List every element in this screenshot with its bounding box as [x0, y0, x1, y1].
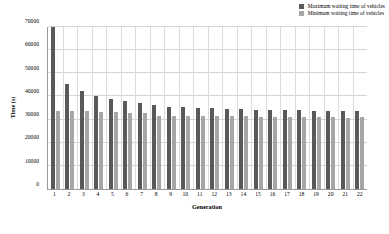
bar-minimum [201, 116, 205, 189]
bar-minimum [288, 117, 292, 189]
bar-group [251, 27, 266, 189]
y-axis-tick-label: 60000 [25, 41, 39, 47]
x-axis-tick-label: 13 [222, 191, 237, 197]
bar-maximum [138, 103, 142, 189]
x-axis-tick-label: 21 [338, 191, 353, 197]
x-axis-tick-label: 11 [192, 191, 207, 197]
y-axis-tick-label: 0 [36, 181, 39, 187]
bar-maximum [326, 111, 330, 189]
bar-minimum [230, 116, 234, 189]
bar-minimum [259, 117, 263, 189]
bar-minimum [70, 111, 74, 189]
x-axis-tick-label: 5 [105, 191, 120, 197]
chart-legend: Maximum waiting time of vehicles Minimum… [299, 3, 385, 16]
bar-minimum [128, 113, 132, 189]
bar-group [106, 27, 121, 189]
bar-maximum [167, 107, 171, 189]
bar-minimum [172, 116, 176, 189]
bar-minimum [244, 116, 248, 189]
bar-minimum [215, 116, 219, 189]
bar-minimum [360, 117, 364, 189]
legend-swatch-minimum [299, 11, 304, 16]
bar-group [309, 27, 324, 189]
bar-group [280, 27, 295, 189]
x-axis-tick-label: 7 [134, 191, 149, 197]
bar-maximum [210, 108, 214, 189]
bar-maximum [239, 109, 243, 189]
bar-group [266, 27, 281, 189]
x-axis-tick-label: 22 [352, 191, 367, 197]
bar-group [179, 27, 194, 189]
bar-maximum [123, 101, 127, 189]
bar-maximum [283, 110, 287, 189]
x-axis-tick-label: 9 [163, 191, 178, 197]
x-axis-tick-label: 15 [251, 191, 266, 197]
bar-maximum [80, 91, 84, 189]
x-axis-title: Generation [47, 203, 367, 210]
plot-area [47, 27, 367, 190]
bar-minimum [302, 117, 306, 189]
bar-maximum [225, 109, 229, 189]
x-axis-tick-label: 20 [323, 191, 338, 197]
bar-maximum [341, 111, 345, 189]
bar-maximum [312, 111, 316, 189]
legend-item-minimum: Minimum waiting time of vehicles [299, 10, 385, 16]
x-axis-tick-label: 1 [47, 191, 62, 197]
bar-minimum [331, 117, 335, 189]
x-axis-tick-label: 19 [309, 191, 324, 197]
bar-group [150, 27, 165, 189]
bar-group [237, 27, 252, 189]
bar-minimum [56, 111, 60, 189]
bar-maximum [355, 111, 359, 189]
bar-maximum [109, 99, 113, 189]
bar-group [222, 27, 237, 189]
y-axis-tick-label: 20000 [25, 134, 39, 140]
y-axis-tick-label: 40000 [25, 88, 39, 94]
x-axis-tick-label: 17 [280, 191, 295, 197]
x-axis-tick-label: 18 [294, 191, 309, 197]
x-axis-tick-label: 8 [149, 191, 164, 197]
bar-maximum [94, 96, 98, 189]
bar-minimum [273, 117, 277, 189]
bar-group [92, 27, 107, 189]
y-axis-tick-label: 30000 [25, 111, 39, 117]
bar-maximum [297, 110, 301, 189]
bar-minimum [186, 116, 190, 189]
x-axis-tick-label: 4 [91, 191, 106, 197]
bar-group [63, 27, 78, 189]
bar-group [324, 27, 339, 189]
bar-maximum [51, 27, 55, 189]
y-axis-tick-label: 70000 [25, 18, 39, 24]
bar-group [77, 27, 92, 189]
bar-group [135, 27, 150, 189]
bar-minimum [99, 112, 103, 189]
bar-minimum [143, 113, 147, 189]
bar-group [193, 27, 208, 189]
bar-group [48, 27, 63, 189]
bar-maximum [65, 84, 69, 189]
bar-minimum [157, 116, 161, 189]
bar-group [121, 27, 136, 189]
x-axis-ticks: 12345678910111213141516171819202122 [47, 191, 367, 197]
legend-label-maximum: Maximum waiting time of vehicles [308, 3, 385, 9]
x-axis-tick-label: 3 [76, 191, 91, 197]
y-axis-title-text: Time (s) [9, 96, 16, 118]
bar-group [338, 27, 353, 189]
y-axis-tick-label: 10000 [25, 158, 39, 164]
bar-group [295, 27, 310, 189]
bar-chart: Maximum waiting time of vehicles Minimum… [0, 0, 389, 234]
bar-minimum [346, 118, 350, 190]
bar-maximum [196, 108, 200, 189]
y-axis-title: Time (s) [2, 0, 24, 234]
bar-maximum [254, 110, 258, 189]
x-axis-tick-label: 10 [178, 191, 193, 197]
bar-minimum [114, 112, 118, 189]
x-axis-tick-label: 16 [265, 191, 280, 197]
bar-minimum [85, 111, 89, 189]
bar-maximum [268, 110, 272, 189]
y-axis-tick-label: 50000 [25, 65, 39, 71]
bar-minimum [317, 117, 321, 189]
legend-label-minimum: Minimum waiting time of vehicles [308, 10, 384, 16]
bar-series-container [48, 27, 367, 189]
bar-maximum [181, 107, 185, 189]
